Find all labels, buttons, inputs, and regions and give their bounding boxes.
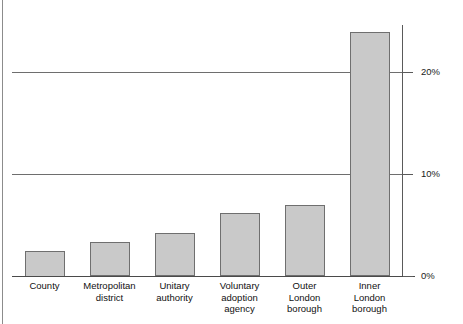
y-tick-mark-0%	[403, 276, 413, 277]
x-axis-label-county: County	[12, 280, 77, 292]
y-axis-line	[402, 25, 403, 276]
y-tick-label-0%: 0%	[421, 271, 435, 281]
x-axis-label-inner-london-borough: Inner London borough	[337, 280, 402, 315]
gridline-20%	[12, 72, 402, 73]
y-tick-label-10%: 10%	[421, 169, 440, 179]
bar-outer-london-borough	[285, 205, 325, 276]
bar-metropolitan-district	[90, 242, 130, 276]
bar-unitary-authority	[155, 233, 195, 276]
bar-county	[25, 251, 65, 277]
x-axis-label-unitary-authority: Unitary authority	[142, 280, 207, 303]
x-axis-label-metropolitan-district: Metropolitan district	[77, 280, 142, 303]
bar-voluntary-adoption-agency	[220, 213, 260, 276]
page-edge-rule	[2, 0, 3, 324]
gridline-10%	[12, 174, 402, 175]
y-tick-mark-20%	[403, 72, 413, 73]
x-axis-label-outer-london-borough: Outer London borough	[272, 280, 337, 315]
x-axis-label-voluntary-adoption-agency: Voluntary adoption agency	[207, 280, 272, 315]
y-tick-mark-10%	[403, 174, 413, 175]
bar-inner-london-borough	[350, 32, 390, 276]
y-tick-label-20%: 20%	[421, 67, 440, 77]
x-axis-line	[12, 276, 415, 277]
bar-chart: 0%10%20% CountyMetropolitan districtUnit…	[0, 0, 463, 324]
